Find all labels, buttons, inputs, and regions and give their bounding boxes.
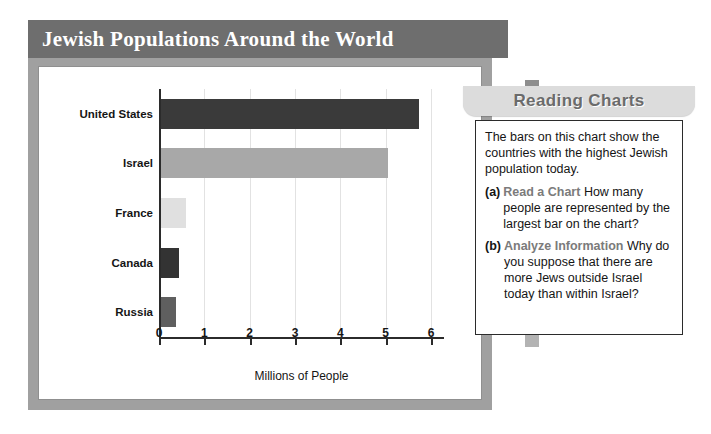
x-axis-tick-label: 3: [292, 326, 299, 340]
question-item: (a)Read a Chart How many people are repr…: [485, 184, 673, 232]
question-text: Analyze Information Why do you suppose t…: [504, 238, 673, 302]
question-lead: Analyze Information: [504, 239, 627, 253]
reading-charts-panel: Reading Charts The bars on this chart sh…: [463, 86, 695, 335]
question-marker: (b): [485, 238, 504, 302]
gridline: [431, 89, 432, 337]
panel-banner: Reading Charts: [463, 86, 695, 116]
panel-tab-bottom: [525, 335, 539, 347]
x-axis-tick-label: 1: [201, 326, 208, 340]
chart-title-bar: Jewish Populations Around the World: [28, 20, 508, 58]
category-label: Russia: [43, 306, 153, 318]
x-axis-tick-label: 5: [382, 326, 389, 340]
x-axis-tick-label: 2: [246, 326, 253, 340]
bar: [161, 248, 179, 278]
question-item: (b)Analyze Information Why do you suppos…: [485, 238, 673, 302]
question-list: (a)Read a Chart How many people are repr…: [485, 184, 673, 302]
panel-body: The bars on this chart show the countrie…: [475, 120, 683, 335]
category-label: United States: [43, 108, 153, 120]
x-axis-title: Millions of People: [159, 369, 444, 383]
x-axis-tick-label: 0: [156, 326, 163, 340]
bar: [161, 297, 176, 327]
category-label: Canada: [43, 257, 153, 269]
category-label: Israel: [43, 157, 153, 169]
page-title: Jewish Populations Around the World: [28, 27, 394, 52]
bar-chart: Millions of People 0123456United StatesI…: [39, 67, 483, 401]
question-marker: (a): [485, 184, 503, 232]
bar: [161, 99, 419, 129]
bar: [161, 148, 388, 178]
x-axis-tick-label: 4: [337, 326, 344, 340]
panel-title: Reading Charts: [513, 91, 644, 111]
question-text: Read a Chart How many people are represe…: [503, 184, 673, 232]
chart-plot-container: Millions of People 0123456United StatesI…: [38, 66, 482, 400]
x-axis-tick-label: 6: [428, 326, 435, 340]
category-label: France: [43, 207, 153, 219]
panel-intro-text: The bars on this chart show the countrie…: [485, 129, 673, 177]
bar: [161, 198, 186, 228]
plot-area: [159, 89, 431, 337]
question-lead: Read a Chart: [503, 185, 584, 199]
